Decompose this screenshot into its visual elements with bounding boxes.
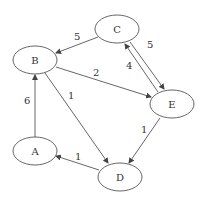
edge-weight-e-d: 1	[141, 124, 147, 135]
node-label-b: B	[31, 55, 38, 66]
edge-weight-e-c: 4	[126, 60, 132, 71]
edge-weight-c-e: 5	[147, 39, 153, 50]
edge-weight-a-b: 6	[24, 95, 30, 106]
node-label-d: D	[116, 172, 124, 183]
edge-weight-c-b: 5	[74, 31, 80, 42]
node-a: A	[13, 137, 57, 165]
node-b: B	[13, 46, 57, 74]
graph-diagram: 6 5 2 1 5 4 1 1 A B C D E	[0, 0, 202, 199]
node-d: D	[98, 163, 142, 191]
node-label-c: C	[113, 24, 121, 35]
edge-weight-b-e: 2	[93, 67, 99, 78]
edge-weight-b-d: 1	[68, 90, 74, 101]
node-e: E	[150, 90, 194, 118]
node-label-e: E	[168, 99, 175, 110]
node-label-a: A	[30, 146, 39, 157]
node-c: C	[95, 15, 139, 43]
edge-weight-d-a: 1	[75, 151, 81, 162]
